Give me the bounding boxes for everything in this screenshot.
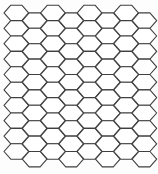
honeycomb-pattern xyxy=(0,0,158,174)
honeycomb-canvas xyxy=(0,0,158,174)
